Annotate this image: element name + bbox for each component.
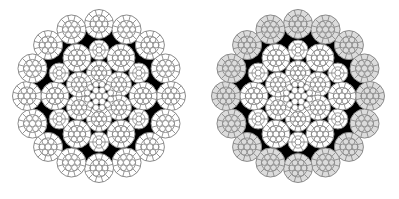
rope-cross-section-right (212, 10, 385, 183)
wire-rope-diagram (0, 0, 399, 199)
middle-large-strand (240, 82, 268, 110)
outer-strand (151, 54, 180, 83)
middle-large-strand (63, 44, 91, 72)
middle-large-strand (262, 44, 290, 72)
outer-strand (284, 154, 313, 183)
outer-strand (57, 15, 86, 44)
middle-small-strand (328, 63, 348, 83)
middle-small-strand (288, 40, 308, 60)
core-wires (84, 81, 113, 110)
outer-strand (217, 109, 246, 138)
middle-large-strand (306, 120, 334, 148)
middle-large-strand (107, 120, 135, 148)
rope-cross-section-left (13, 10, 186, 183)
middle-small-strand (49, 109, 69, 129)
middle-small-strand (248, 109, 268, 129)
outer-strand (85, 154, 114, 183)
outer-strand (13, 82, 42, 111)
outer-strand (85, 10, 114, 39)
outer-strand (256, 15, 285, 44)
middle-small-strand (89, 40, 109, 60)
outer-strand (112, 148, 141, 177)
middle-large-strand (41, 82, 69, 110)
middle-small-strand (129, 63, 149, 83)
middle-small-strand (89, 132, 109, 152)
outer-strand (356, 82, 385, 111)
outer-strand (284, 10, 313, 39)
outer-strand (18, 109, 47, 138)
outer-strand (311, 148, 340, 177)
middle-small-strand (288, 132, 308, 152)
middle-large-strand (129, 82, 157, 110)
outer-strand (350, 54, 379, 83)
middle-large-strand (328, 82, 356, 110)
outer-strand (157, 82, 186, 111)
outer-strand (212, 82, 241, 111)
core-wires (283, 81, 312, 110)
